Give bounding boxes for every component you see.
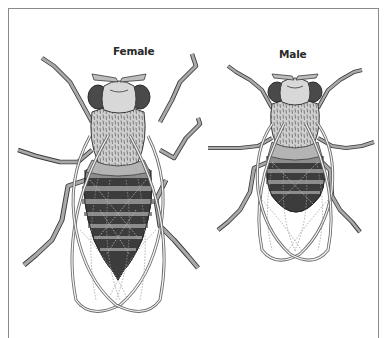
male-abdomen — [265, 156, 325, 212]
female-head — [88, 74, 150, 113]
male-thorax — [271, 99, 320, 150]
male-head — [268, 74, 322, 105]
male-fly — [208, 66, 374, 260]
female-abdomen — [82, 170, 154, 280]
female-thorax — [91, 106, 145, 169]
female-fly — [18, 54, 200, 311]
